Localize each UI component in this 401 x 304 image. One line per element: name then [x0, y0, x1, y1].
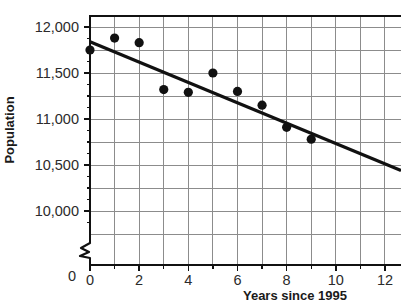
y-axis-title: Population: [2, 96, 17, 163]
y-tick-label: 11,000: [36, 111, 79, 127]
data-point: [85, 45, 94, 54]
x-tick-label: 0: [86, 272, 94, 288]
y-tick-label: 10,000: [35, 203, 79, 219]
data-point: [159, 85, 168, 94]
data-point: [307, 135, 316, 144]
x-tick-label: 10: [328, 272, 344, 288]
x-axis-title: Years since 1995: [243, 288, 347, 303]
chart-canvas: 10,00010,50011,00011,50012,000 024681012…: [0, 0, 401, 304]
data-point: [282, 123, 291, 132]
y-tick-label: 10,500: [35, 157, 79, 173]
x-tick-label: 2: [135, 272, 143, 288]
y-axis-zero-label: 0: [68, 268, 76, 284]
scatter-plot-chart: 10,00010,50011,00011,50012,000 024681012…: [0, 0, 401, 304]
data-point: [208, 68, 217, 77]
y-tick-label: 12,000: [35, 19, 79, 35]
x-tick-label: 12: [377, 272, 393, 288]
y-tick-label: 11,500: [36, 65, 79, 81]
x-tick-label: 8: [283, 272, 291, 288]
data-point: [135, 38, 144, 47]
x-tick-label: 4: [184, 272, 192, 288]
x-tick-label: 6: [233, 272, 241, 288]
data-point: [257, 101, 266, 110]
data-point: [110, 33, 119, 42]
chart-background: [0, 0, 401, 304]
data-point: [184, 88, 193, 97]
data-point: [233, 87, 242, 96]
